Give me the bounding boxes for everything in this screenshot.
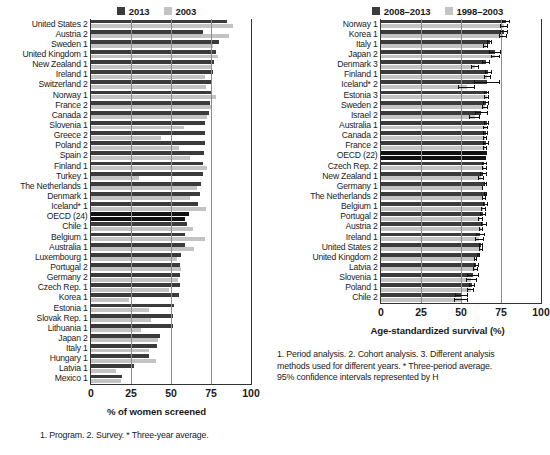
x-tick-label: 75 (205, 387, 217, 399)
error-bar-cap-high (490, 75, 491, 79)
bar-cell (380, 242, 541, 252)
bar-series-new (91, 30, 203, 34)
error-bar-cap-high (483, 176, 484, 180)
bar-row: France 2 (273, 141, 546, 151)
category-label: Hungary 1 (0, 354, 90, 363)
category-label: Ireland 1 (273, 233, 380, 242)
x-tick-label: 50 (165, 387, 177, 399)
bar-row: Chile 2 (273, 293, 546, 303)
error-bar-stem (474, 82, 500, 83)
bar-series-new (381, 182, 485, 186)
legend-swatch-2008-2013 (372, 7, 380, 15)
error-bar (471, 65, 479, 69)
error-bar (475, 111, 489, 115)
error-bar-cap-high (487, 202, 488, 206)
bar-cell (90, 273, 251, 283)
bar-series-new (91, 111, 209, 115)
error-bar-cap-high (487, 126, 488, 130)
error-bar-cap-low (489, 50, 490, 54)
bar-series-new (381, 121, 487, 125)
bar-cell (380, 283, 541, 293)
category-label: United States 2 (273, 243, 380, 252)
error-bar (484, 156, 486, 160)
bar-series-new (91, 293, 179, 297)
bar-row: Slovenia 1 (0, 120, 273, 130)
error-bar-cap-high (482, 186, 483, 190)
error-bar (484, 121, 489, 125)
bar-series-new (91, 50, 216, 54)
bar-series-old (91, 146, 179, 150)
bar-cell (90, 262, 251, 272)
error-bar-cap-low (484, 192, 485, 196)
bar-series-old (91, 379, 121, 383)
bar-series-new (91, 243, 185, 247)
error-bar (466, 278, 477, 282)
bar-series-new (91, 60, 214, 64)
bar-series-old (381, 95, 487, 99)
error-bar (478, 217, 483, 221)
bar-series-old (381, 217, 480, 221)
error-bar (483, 146, 488, 150)
bar-row: Czech Rep. 1 (0, 283, 273, 293)
bar-row: Austria 2 (0, 29, 273, 39)
bar-series-old (381, 166, 484, 170)
bar-series-new (91, 304, 174, 308)
error-bar-cap-high (482, 217, 483, 221)
error-bar (482, 186, 484, 190)
bar-series-old (91, 217, 185, 221)
error-bar (479, 227, 484, 231)
error-bar-cap-low (483, 146, 484, 150)
error-bar-cap-high (509, 20, 510, 24)
bar-series-old (381, 278, 471, 282)
category-label: Germany 2 (0, 273, 90, 282)
error-bar-cap-low (482, 166, 483, 170)
error-bar (482, 105, 488, 109)
bar-row: Finland 1 (0, 161, 273, 171)
error-bar-cap-low (483, 101, 484, 105)
error-bar (467, 288, 473, 292)
bar-cell (90, 344, 251, 354)
error-bar-cap-high (486, 136, 487, 140)
bar-cell (380, 29, 541, 39)
bar-cell (380, 171, 541, 181)
error-bar (487, 40, 492, 44)
error-bar-cap-low (483, 126, 484, 130)
category-label: Slovak Rep. 1 (0, 314, 90, 323)
error-bar-cap-low (478, 176, 479, 180)
category-label: Estonia 3 (273, 91, 380, 100)
bar-series-new (91, 121, 205, 125)
error-bar (478, 176, 484, 180)
bar-row: Estonia 3 (273, 90, 546, 100)
bar-series-old (91, 115, 207, 119)
bar-row: United Kingdom 1 (0, 49, 273, 59)
bar-row: Austria 2 (273, 222, 546, 232)
category-label: Belgium 1 (0, 233, 90, 242)
chart-panel-survival: 2008–2013 1998–2003 Norway 1Korea 1Italy… (273, 0, 546, 455)
bar-cell (90, 110, 251, 120)
error-bar (467, 273, 479, 277)
bar-series-new (381, 80, 487, 84)
category-label: Iceland* 2 (273, 80, 380, 89)
x-axis-title-screening: % of women screened (0, 406, 273, 417)
error-bar-cap-high (488, 101, 489, 105)
error-bar (476, 233, 485, 237)
bar-cell (90, 80, 251, 90)
bar-series-old (91, 95, 216, 99)
bar-series-old (381, 237, 479, 241)
bar-series-old (91, 338, 158, 342)
bar-series-old (381, 267, 475, 271)
bar-series-old (381, 44, 486, 48)
bar-row: Australia 1 (273, 120, 546, 130)
category-label: Ireland 1 (0, 70, 90, 79)
bar-series-old (381, 176, 481, 180)
category-label: United Kingdom 1 (0, 50, 90, 59)
bar-cell (380, 120, 541, 130)
category-label: Poland 2 (0, 141, 90, 150)
bar-series-new (91, 273, 180, 277)
bar-series-old (91, 267, 181, 271)
category-label: United Kingdom 2 (273, 253, 380, 262)
error-bar (483, 131, 488, 135)
bar-cell (90, 60, 251, 70)
error-bar (474, 257, 477, 261)
bar-series-old (91, 298, 129, 302)
